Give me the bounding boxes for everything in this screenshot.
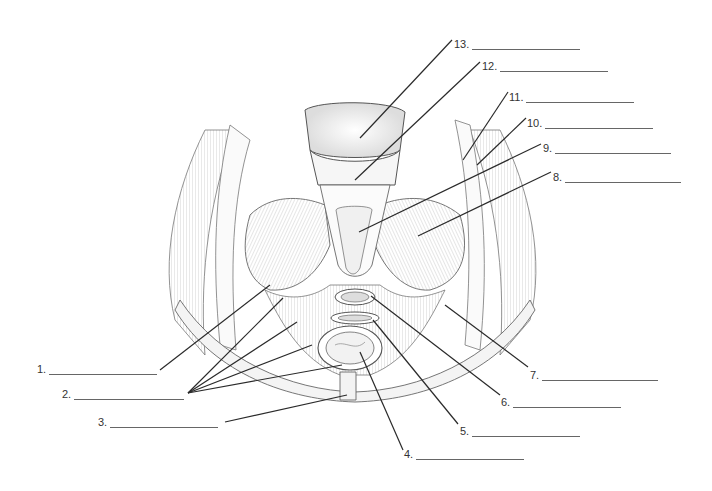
- label-number: 2.: [62, 388, 71, 400]
- answer-blank[interactable]: [555, 143, 671, 154]
- label-9: 9.: [543, 142, 671, 154]
- label-number: 12.: [482, 60, 497, 72]
- levator-right: [375, 198, 465, 290]
- answer-blank[interactable]: [500, 61, 608, 72]
- label-3: 3.: [98, 416, 218, 428]
- levator-left: [245, 198, 330, 290]
- answer-blank[interactable]: [416, 449, 524, 460]
- label-13: 13.: [454, 38, 580, 50]
- label-number: 9.: [543, 142, 552, 154]
- label-number: 10.: [527, 117, 542, 129]
- label-4: 4.: [404, 448, 524, 460]
- answer-blank[interactable]: [545, 118, 653, 129]
- label-11: 11.: [509, 91, 634, 103]
- label-1: 1.: [37, 363, 157, 375]
- answer-blank[interactable]: [49, 364, 157, 375]
- outer-muscle-left: [169, 125, 250, 355]
- answer-blank[interactable]: [542, 370, 658, 381]
- label-5: 5.: [460, 425, 580, 437]
- label-10: 10.: [527, 117, 653, 129]
- label-number: 6.: [501, 396, 510, 408]
- answer-blank[interactable]: [110, 417, 218, 428]
- label-number: 3.: [98, 416, 107, 428]
- label-2: 2.: [62, 388, 184, 400]
- answer-blank[interactable]: [472, 39, 580, 50]
- answer-blank[interactable]: [74, 389, 184, 400]
- urethra: [335, 289, 375, 305]
- anal-canal: [318, 326, 382, 370]
- label-number: 7.: [530, 369, 539, 381]
- label-number: 13.: [454, 38, 469, 50]
- label-12: 12.: [482, 60, 608, 72]
- label-7: 7.: [530, 369, 658, 381]
- answer-blank[interactable]: [526, 92, 634, 103]
- answer-blank[interactable]: [472, 426, 580, 437]
- label-number: 1.: [37, 363, 46, 375]
- answer-blank[interactable]: [565, 172, 681, 183]
- label-number: 8.: [553, 171, 562, 183]
- label-number: 5.: [460, 425, 469, 437]
- vagina: [331, 312, 379, 324]
- label-number: 11.: [509, 91, 523, 103]
- label-6: 6.: [501, 396, 621, 408]
- answer-blank[interactable]: [513, 397, 621, 408]
- label-number: 4.: [404, 448, 413, 460]
- label-8: 8.: [553, 171, 681, 183]
